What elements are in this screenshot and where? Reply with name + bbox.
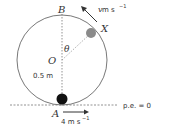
label-v-exponent: −1 xyxy=(119,3,126,9)
label-4ms-exponent: −1 xyxy=(82,115,89,121)
label-x: X xyxy=(100,23,109,34)
ball-at-x xyxy=(86,28,96,38)
reference-line-label: p.e. = 0 xyxy=(123,102,151,110)
velocity-arrow-top xyxy=(84,9,97,22)
arrowhead-bottom-icon xyxy=(84,110,89,115)
label-a: A xyxy=(51,108,59,119)
label-4ms: 4 m s xyxy=(61,118,81,126)
label-o: O xyxy=(48,55,56,66)
label-b: B xyxy=(57,4,65,15)
radius-label: 0.5 m xyxy=(33,72,53,80)
label-v-unit: m s xyxy=(102,6,115,14)
circular-motion-diagram: B X O θ A 0.5 m v m s −1 4 m s −1 p.e. =… xyxy=(0,0,171,128)
ball-at-a xyxy=(57,94,68,105)
label-theta: θ xyxy=(64,44,70,54)
